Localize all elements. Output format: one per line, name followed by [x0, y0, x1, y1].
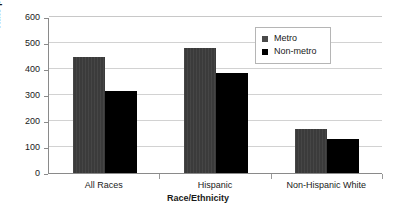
x-tick-label-2: Non-Hispanic White [271, 180, 382, 190]
legend-label-metro: Metro [274, 34, 297, 43]
legend-item-non-metro: Non-metro [262, 45, 325, 58]
legend-label-non-metro: Non-metro [274, 47, 317, 56]
plot-area [48, 18, 382, 174]
bar-non-metro-0 [105, 91, 137, 173]
x-separator-2 [382, 174, 383, 179]
y-tick-label-200: 200 [6, 117, 40, 126]
y-tick-label-100: 100 [6, 143, 40, 152]
chart-legend: Metro Non-metro [255, 27, 331, 64]
y-tick-label-300: 300 [6, 91, 40, 100]
y-tick-label-0: 0 [6, 169, 40, 178]
y-tick-label-400: 400 [6, 65, 40, 74]
legend-swatch-non-metro-icon [262, 49, 268, 55]
legend-swatch-metro-icon [262, 36, 268, 42]
y-tick-label-600: 600 [6, 13, 40, 22]
bar-metro-2 [295, 129, 327, 173]
bar-metro-0 [73, 57, 105, 173]
bar-chart: Rate per 100,000 0100200300400500600 All… [0, 0, 396, 217]
gridline-600 [49, 16, 382, 17]
legend-item-metro: Metro [262, 32, 325, 45]
bar-group-1 [184, 18, 248, 173]
bar-group-0 [73, 18, 137, 173]
bar-non-metro-1 [216, 73, 248, 173]
x-tick-label-0: All Races [48, 180, 159, 190]
bar-non-metro-2 [327, 139, 359, 173]
x-tick-label-1: Hispanic [159, 180, 270, 190]
y-tick-mark-0 [44, 174, 48, 175]
x-axis-title: Race/Ethnicity [0, 193, 396, 203]
y-axis-title: Rate per 100,000 [0, 0, 2, 52]
bar-metro-1 [184, 48, 216, 173]
x-separator-1 [271, 174, 272, 179]
x-separator-0 [159, 174, 160, 179]
y-tick-label-500: 500 [6, 39, 40, 48]
cropped-header-artifact [0, 0, 396, 6]
